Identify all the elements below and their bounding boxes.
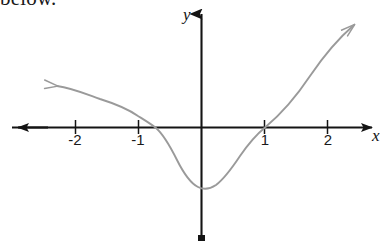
y-axis-label: y [183,5,191,25]
x-tick-label-pos2: 2 [315,131,341,148]
x-axis-label: x [372,126,380,146]
x-tick-label-neg1: -1 [125,131,151,148]
y-axis-bottom-cap [198,235,205,241]
function-curve [57,25,354,189]
figure-page: below. y x -2 [0,0,387,243]
graph-figure [0,0,387,243]
x-tick-label-neg2: -2 [62,131,88,148]
x-tick-label-pos1: 1 [252,131,278,148]
